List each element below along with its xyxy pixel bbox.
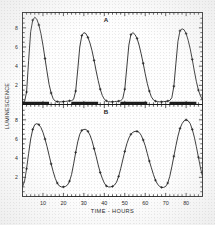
data-point-marker [179,127,182,130]
x-axis-title: TIME - HOURS [91,208,134,214]
data-point-marker [197,89,200,92]
data-point-marker [25,91,28,94]
data-point-marker [111,101,114,104]
data-point-marker [142,62,145,65]
y-axis-title: LUMINESCENCE [4,83,10,130]
data-point-marker [185,119,188,122]
data-point-marker [191,128,194,131]
y-tick-label: 8 [15,25,18,31]
data-point-marker [68,100,71,103]
data-point-marker [117,175,120,178]
data-point-marker [44,57,47,60]
x-tick-label: 60 [142,200,148,206]
data-point-marker [93,59,96,62]
luminescence-chart: 2468A24681020304050607080BTIME - HOURSLU… [0,0,215,225]
x-tick-label: 80 [183,200,189,206]
figure-container: 2468A24681020304050607080BTIME - HOURSLU… [0,0,215,225]
y-tick-label: 8 [15,117,18,123]
data-point-marker [50,92,53,95]
data-point-marker [191,58,194,61]
x-tick-label: 30 [81,200,87,206]
data-point-marker [173,85,176,88]
data-point-marker [50,163,53,166]
y-tick-label: 6 [15,136,18,142]
data-point-marker [160,101,163,104]
data-point-marker [62,100,65,103]
data-point-marker [25,167,28,170]
y-tick-label: 4 [15,63,18,69]
data-point-marker [160,186,163,189]
panel-label: B [104,108,109,115]
data-point-marker [99,88,102,91]
data-point-marker [44,138,47,141]
y-tick-label: 2 [15,82,18,88]
data-point-marker [123,88,126,91]
data-point-marker [38,24,41,27]
data-point-marker [173,155,176,158]
x-tick-label: 50 [122,200,128,206]
x-tick-label: 20 [60,200,66,206]
y-tick-label: 6 [15,44,18,50]
data-point-marker [136,130,139,133]
panel-frame [23,105,203,197]
x-tick-label: 40 [101,200,107,206]
data-point-marker [31,128,34,131]
panel-a: 2468A [15,13,202,105]
data-curve [23,120,203,188]
data-point-marker [56,100,59,103]
panel-frame [23,13,203,105]
data-point-marker [148,90,151,93]
y-tick-label: 4 [15,155,18,161]
data-point-marker [117,100,120,103]
data-point-marker [99,171,102,174]
panel-label: A [104,16,109,23]
y-tick-label: 2 [15,174,18,180]
data-curve [23,17,203,102]
x-tick-label: 70 [163,200,169,206]
data-point-marker [74,90,77,93]
data-point-marker [142,139,145,142]
data-point-marker [74,151,77,154]
data-point-marker [123,150,126,153]
data-point-marker [148,160,151,163]
data-point-marker [62,186,65,189]
data-point-marker [93,147,96,150]
data-point-marker [166,100,169,103]
x-tick-label: 10 [40,200,46,206]
panel-b: 24681020304050607080B [15,105,202,206]
